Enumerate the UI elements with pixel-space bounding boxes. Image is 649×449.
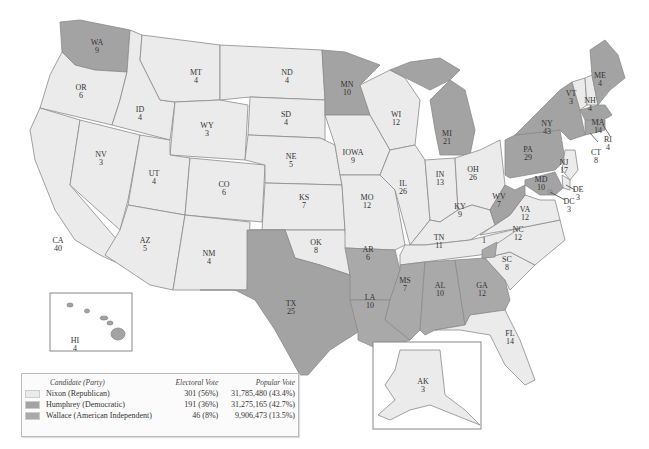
legend-header-candidate: Candidate (Party) — [22, 377, 168, 388]
state-label-RI: RI4 — [604, 135, 612, 152]
state-label-LA: LA10 — [365, 293, 376, 310]
state-electoral-votes: 7 — [497, 200, 501, 209]
state-label-WI: WI12 — [391, 110, 402, 127]
state-electoral-votes: 3 — [99, 158, 103, 167]
state-electoral-votes: 21 — [443, 137, 451, 146]
state-label-TX: TX25 — [286, 299, 297, 316]
state-electoral-votes: 10 — [537, 183, 545, 192]
legend-swatch-wallace — [25, 412, 40, 420]
state-electoral-votes: 4 — [588, 104, 592, 113]
state-electoral-votes: 9 — [351, 156, 355, 165]
state-electoral-votes: 29 — [524, 153, 532, 162]
state-ND[interactable] — [220, 45, 325, 100]
state-electoral-votes: 5 — [289, 160, 293, 169]
state-electoral-votes: 12 — [392, 118, 400, 127]
state-label-DC: DC3 — [563, 197, 574, 214]
state-label-NJ: NJ17 — [560, 158, 569, 175]
state-electoral-votes: 10 — [343, 88, 351, 97]
state-label-IL: IL26 — [399, 179, 407, 196]
state-electoral-votes: 12 — [478, 289, 486, 298]
legend-popular: 31,785,480 (43.4%) — [221, 388, 298, 399]
state-label-VA: VA12 — [520, 205, 531, 222]
legend-electoral: 46 (8%) — [168, 410, 221, 421]
legend-electoral: 301 (56%) — [168, 388, 221, 399]
state-label-MI: MI21 — [442, 129, 452, 146]
legend-table: Candidate (Party) Electoral Vote Popular… — [22, 377, 298, 421]
state-IN[interactable] — [425, 158, 458, 222]
state-electoral-votes: 12 — [514, 233, 522, 242]
state-electoral-votes: 4 — [598, 79, 602, 88]
state-electoral-votes: 6 — [366, 253, 370, 262]
legend-electoral: 191 (36%) — [168, 399, 221, 410]
state-electoral-votes: 25 — [287, 307, 295, 316]
state-electoral-votes: 10 — [366, 301, 374, 310]
state-electoral-votes: 6 — [222, 188, 226, 197]
state-label-IN: IN13 — [436, 170, 445, 187]
state-electoral-votes: 7 — [403, 284, 407, 293]
state-electoral-votes: 5 — [143, 244, 147, 253]
legend-header-electoral: Electoral Vote — [168, 377, 221, 388]
legend-row: Humphrey (Democratic) 191 (36%) 31,275,1… — [22, 399, 298, 410]
state-electoral-votes: 3 — [567, 205, 571, 214]
legend-swatch-humphrey — [25, 401, 40, 409]
legend: Candidate (Party) Electoral Vote Popular… — [21, 373, 299, 437]
state-electoral-votes: 13 — [436, 178, 444, 187]
state-electoral-votes: 10 — [436, 289, 444, 298]
state-electoral-votes: 17 — [560, 166, 568, 175]
state-electoral-votes: 4 — [285, 76, 289, 85]
state-electoral-votes: 26 — [399, 187, 407, 196]
state-MI[interactable] — [430, 80, 475, 155]
state-PA[interactable] — [505, 130, 565, 178]
legend-swatch-nixon — [25, 390, 40, 398]
legend-candidate: Nixon (Republican) — [46, 389, 110, 398]
state-electoral-votes: 11 — [435, 241, 443, 250]
state-electoral-votes: 7 — [302, 201, 306, 210]
state-electoral-votes: 3 — [421, 385, 425, 394]
legend-popular: 9,906,473 (13.5%) — [221, 410, 298, 421]
state-electoral-votes: 4 — [284, 118, 288, 127]
state-electoral-votes: 8 — [594, 156, 598, 165]
state-electoral-votes: 1 — [482, 236, 486, 245]
state-electoral-votes: 9 — [95, 46, 99, 55]
state-electoral-votes: 3 — [569, 97, 573, 106]
state-electoral-votes: 8 — [505, 263, 509, 272]
state-electoral-votes: 4 — [606, 143, 610, 152]
legend-row: Wallace (American Independent) 46 (8%) 9… — [22, 410, 298, 421]
state-electoral-votes: 4 — [194, 76, 198, 85]
state-electoral-votes: 9 — [458, 210, 462, 219]
state-label-CT: CT8 — [591, 148, 601, 165]
state-electoral-votes: 3 — [576, 193, 580, 202]
state-electoral-votes: 4 — [73, 344, 77, 353]
state-electoral-votes: 26 — [469, 173, 477, 182]
state-electoral-votes: 4 — [152, 177, 156, 186]
state-electoral-votes: 6 — [79, 91, 83, 100]
state-label-NC: NC12 — [512, 225, 523, 242]
legend-row: Nixon (Republican) 301 (56%) 31,785,480 … — [22, 388, 298, 399]
legend-candidate: Wallace (American Independent) — [46, 411, 152, 420]
legend-popular: 31,275,165 (42.7%) — [221, 399, 298, 410]
state-electoral-votes: 40 — [54, 244, 62, 253]
state-electoral-votes: 12 — [521, 213, 529, 222]
state-electoral-votes: 43 — [543, 127, 551, 136]
state-electoral-votes: 4 — [207, 257, 211, 266]
state-electoral-votes: 12 — [363, 201, 371, 210]
state-label-MA: MA14 — [592, 118, 605, 135]
state-HI[interactable] — [111, 328, 125, 340]
legend-header-popular: Popular Vote — [221, 377, 298, 388]
state-electoral-votes: 14 — [506, 337, 514, 346]
state-WY[interactable] — [170, 100, 248, 160]
state-electoral-votes: 8 — [314, 246, 318, 255]
hawaii-inset-frame — [50, 293, 132, 351]
state-label-NC_wallace: 1 — [482, 236, 486, 245]
state-electoral-votes: 4 — [138, 113, 142, 122]
state-electoral-votes: 14 — [594, 126, 602, 135]
legend-candidate: Humphrey (Democratic) — [46, 400, 125, 409]
state-label-AL: AL10 — [435, 281, 446, 298]
state-label-FL: FL14 — [505, 329, 514, 346]
state-label-CA: CA40 — [52, 236, 63, 253]
state-electoral-votes: 3 — [205, 129, 209, 138]
state-label-PA: PA29 — [523, 145, 533, 162]
